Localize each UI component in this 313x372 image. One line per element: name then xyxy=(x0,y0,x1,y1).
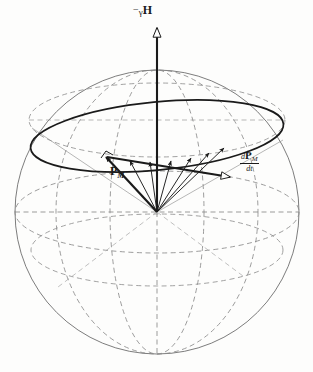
p-m-subscript: M xyxy=(117,171,124,180)
p-m-vector-label: PM xyxy=(110,165,124,180)
derivative-p-subscript: M xyxy=(252,155,258,163)
derivative-numerator: dPM xyxy=(240,150,259,164)
d-p-m-dt-label: dPM dt xyxy=(240,150,259,174)
field-h-symbol: H xyxy=(143,3,152,17)
cone-generator-left xyxy=(32,128,157,212)
derivative-p-symbol: P xyxy=(245,149,252,161)
precession-vector-7 xyxy=(157,148,224,212)
field-axis-label: −γH xyxy=(133,4,152,17)
derivative-denominator: dt xyxy=(240,164,259,173)
precession-vector-fan xyxy=(130,148,224,212)
precession-diagram xyxy=(0,0,313,372)
